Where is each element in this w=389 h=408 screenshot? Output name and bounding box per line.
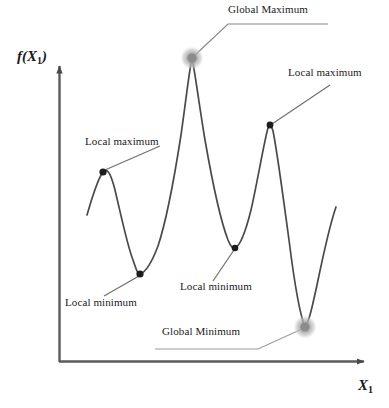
marker-local-minimum-middle: [232, 245, 239, 252]
annotation-local-minimum-left: Local minimum: [65, 297, 137, 308]
annotation-global-minimum: Global Minimum: [162, 326, 240, 337]
function-plot-svg: [0, 0, 389, 408]
y-axis-label-tail: ): [42, 48, 47, 64]
annotation-local-maximum-left: Local maximum: [85, 136, 159, 147]
global-maximum-core: [187, 53, 196, 62]
marker-global-minimum: [294, 316, 317, 339]
figure-container: Global Maximum Local maximum Local maxim…: [0, 0, 389, 408]
global-minimum-core: [300, 322, 309, 331]
x-axis-label-subscript: 1: [368, 384, 373, 395]
marker-local-maximum-right: [267, 122, 274, 129]
leader-local-maximum-left: [105, 146, 160, 170]
annotation-local-maximum-right: Local maximum: [288, 67, 362, 78]
leader-global-maximum: [194, 24, 328, 56]
x-axis-label: X1: [358, 378, 373, 393]
marker-global-maximum: [181, 47, 204, 70]
annotation-global-maximum: Global Maximum: [228, 4, 308, 15]
axes-group: [59, 66, 364, 362]
leader-local-maximum-right: [272, 85, 330, 124]
marker-local-minimum-left: [136, 270, 143, 277]
leader-local-minimum-left: [104, 276, 139, 296]
y-axis-label-subscript: 1: [37, 55, 42, 66]
leader-local-minimum-middle: [213, 250, 234, 281]
extrema-markers-group: [99, 47, 316, 339]
y-axis-label-main: f(X: [17, 48, 37, 64]
annotation-local-minimum-middle: Local minimum: [180, 281, 252, 292]
x-axis-label-main: X: [358, 377, 368, 393]
marker-local-maximum-left: [99, 168, 106, 175]
y-axis-label: f(X1): [17, 49, 47, 64]
